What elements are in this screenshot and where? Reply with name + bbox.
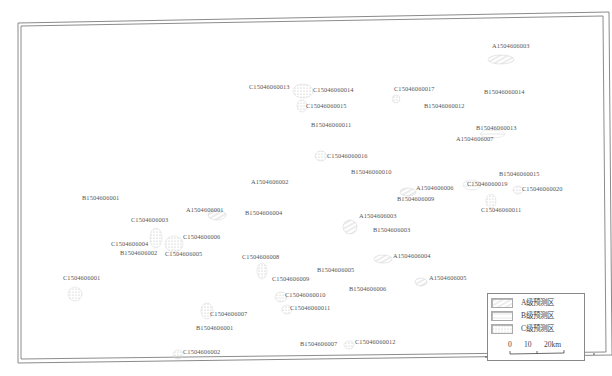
zone-label-b15046060014: B15046060014 [484, 89, 525, 95]
legend-label-b: B级预测区 [521, 311, 554, 321]
zone-label-c1504606003: C1504606003 [131, 217, 168, 223]
zone-label-c15046060015: C15046060015 [306, 103, 347, 109]
legend-item-a: A级预测区 [491, 298, 581, 308]
prediction-zone-a [374, 255, 392, 263]
zone-label-a1504606004: A1504606004 [393, 253, 431, 259]
zone-label-b1504606001: B1504606001 [82, 195, 119, 201]
legend-item-c: C级预测区 [491, 324, 581, 334]
zone-label-a1504606002: A1504606002 [251, 179, 289, 185]
scale-bar: 0 10 20km [488, 340, 584, 350]
zone-label-c1504606008: C1504606008 [242, 254, 279, 260]
zone-label-a1504606006: A1504606006 [416, 185, 454, 191]
zone-label-b15046060015: B15046060015 [499, 171, 540, 177]
zone-label-c15046060010: C15046060010 [285, 292, 326, 298]
zone-label-b1504606009: B1504606009 [397, 196, 434, 202]
prediction-zone-a [415, 278, 427, 286]
scale-tick-0: 0 [508, 340, 512, 349]
map-legend: A级预测区 B级预测区 C级预测区 0 10 20km [487, 293, 585, 361]
zone-label-b15046060011: B15046060011 [311, 122, 351, 128]
zone-label-b1504606003: B1504606003 [373, 227, 410, 233]
zone-label-c15046060020: C15046060020 [522, 186, 563, 192]
scale-bar-line [508, 350, 568, 356]
zone-label-c15046060011: C15046060011 [290, 305, 330, 311]
prediction-zone-c [68, 287, 82, 301]
legend-item-b: B级预测区 [491, 311, 581, 321]
prediction-zone-c [173, 350, 183, 359]
prediction-zone-c [257, 263, 267, 279]
zone-label-b15046060013: B15046060013 [476, 125, 517, 131]
zone-label-a1504606003: A1504606003 [492, 43, 530, 49]
zone-label-a1504606005: A1504606005 [429, 275, 467, 281]
zone-label-c1504606004: C1504606004 [111, 241, 148, 247]
legend-label-a: A级预测区 [521, 298, 554, 308]
prediction-zone-c [315, 151, 327, 161]
map-canvas: A1504606003C15046060013C15046060014C1504… [0, 0, 612, 376]
zone-label-c15046060014: C15046060014 [313, 87, 354, 93]
zone-label-b1504606006: B1504606006 [349, 286, 386, 292]
zone-label-c15046060017: C15046060017 [394, 86, 435, 92]
a-zone-swatch-icon [491, 298, 513, 308]
zone-label-c1504606007: C1504606007 [210, 311, 247, 317]
zone-label-c15046060011: C15046060011 [481, 207, 521, 213]
zone-label-c15046060012: C15046060012 [355, 339, 396, 345]
zone-label-b1504606001: B1504606001 [196, 325, 233, 331]
zone-label-a1504606007: A1504606007 [456, 136, 494, 142]
prediction-zone-c [150, 228, 162, 248]
zone-label-c1504606009: C1504606009 [272, 276, 309, 282]
zone-label-b1504606002: B1504606002 [120, 250, 157, 256]
zone-label-b1504606005: B1504606005 [317, 267, 354, 273]
prediction-zone-c [293, 84, 313, 98]
zone-label-a1504606003: A1504606003 [359, 213, 397, 219]
zone-label-c1504606005: C1504606005 [165, 251, 202, 257]
b-zone-swatch-icon [491, 311, 513, 321]
prediction-zone-a [488, 55, 514, 64]
zone-label-c15046060013: C15046060013 [249, 84, 290, 90]
zone-label-c1504606001: C1504606001 [63, 275, 100, 281]
prediction-zone-c [344, 341, 354, 349]
zone-label-c15046060019: C15046060019 [467, 181, 508, 187]
c-zone-swatch-icon [491, 324, 513, 334]
zone-label-b1504606007: B1504606007 [300, 341, 337, 347]
zone-label-a1504606001: A1504606001 [186, 207, 224, 213]
scale-tick-20: 20km [544, 340, 561, 349]
zone-label-c1504606006: C1504606006 [183, 234, 220, 240]
zone-label-b15046060010: B15046060010 [351, 169, 392, 175]
zone-label-b15046060012: B15046060012 [424, 103, 465, 109]
zone-label-c15046060016: C15046060016 [327, 153, 368, 159]
prediction-zone-a [343, 220, 357, 234]
prediction-zone-c [392, 95, 400, 103]
legend-label-c: C级预测区 [521, 324, 554, 334]
zone-label-b1504606004: B1504606004 [245, 210, 282, 216]
scale-tick-10: 10 [524, 340, 532, 349]
zone-label-c1504606002: C1504606002 [183, 349, 220, 355]
